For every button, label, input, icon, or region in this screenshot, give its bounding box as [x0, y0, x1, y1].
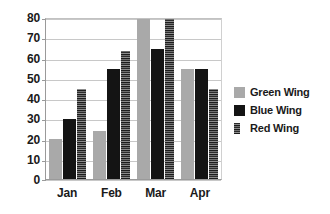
y-axis-tick-label: 50 — [2, 73, 40, 85]
legend-item[interactable]: Green Wing — [234, 84, 328, 100]
x-axis-category-label: Mar — [134, 184, 178, 206]
gridline — [46, 180, 221, 181]
y-axis-tick-label: 70 — [2, 32, 40, 44]
bar — [137, 19, 150, 179]
legend-swatch-icon — [234, 123, 240, 134]
x-axis-category-label: Apr — [178, 184, 222, 206]
x-axis-category-label: Feb — [89, 184, 133, 206]
chart-legend: Green WingBlue WingRed Wing — [234, 84, 328, 138]
bar — [63, 119, 76, 179]
bar — [77, 89, 86, 179]
y-axis-tick-label: 40 — [2, 93, 40, 105]
y-axis-tick-label: 0 — [2, 174, 40, 186]
x-axis-category-labels: JanFebMarApr — [45, 184, 222, 206]
y-axis-tick-mark — [42, 180, 46, 181]
legend-item[interactable]: Red Wing — [234, 120, 328, 136]
bar-group — [134, 19, 178, 179]
bar — [49, 139, 62, 179]
bar — [165, 19, 174, 179]
legend-swatch-icon — [234, 105, 245, 116]
y-axis-tick-label: 10 — [2, 154, 40, 166]
bar-chart: 01020304050607080 JanFebMarApr Green Win… — [0, 0, 330, 214]
legend-label: Red Wing — [250, 122, 299, 134]
y-axis-tick-label: 80 — [2, 12, 40, 24]
y-axis-tick-labels: 01020304050607080 — [0, 18, 40, 180]
bar — [121, 51, 130, 179]
bar-group — [177, 19, 221, 179]
bar — [181, 69, 194, 179]
bar — [195, 69, 208, 179]
legend-swatch-icon — [234, 87, 245, 98]
bar — [93, 131, 106, 179]
y-axis-tick-label: 20 — [2, 134, 40, 146]
legend-label: Green Wing — [250, 86, 310, 98]
bar-group — [46, 19, 90, 179]
plot-area — [45, 18, 222, 180]
y-axis-tick-label: 30 — [2, 113, 40, 125]
bar — [151, 49, 164, 179]
bar — [107, 69, 120, 179]
legend-item[interactable]: Blue Wing — [234, 102, 328, 118]
x-axis-category-label: Jan — [45, 184, 89, 206]
bar-group — [90, 19, 134, 179]
legend-label: Blue Wing — [250, 104, 302, 116]
bar-groups — [46, 19, 221, 179]
y-axis-tick-label: 60 — [2, 53, 40, 65]
bar — [209, 89, 218, 179]
